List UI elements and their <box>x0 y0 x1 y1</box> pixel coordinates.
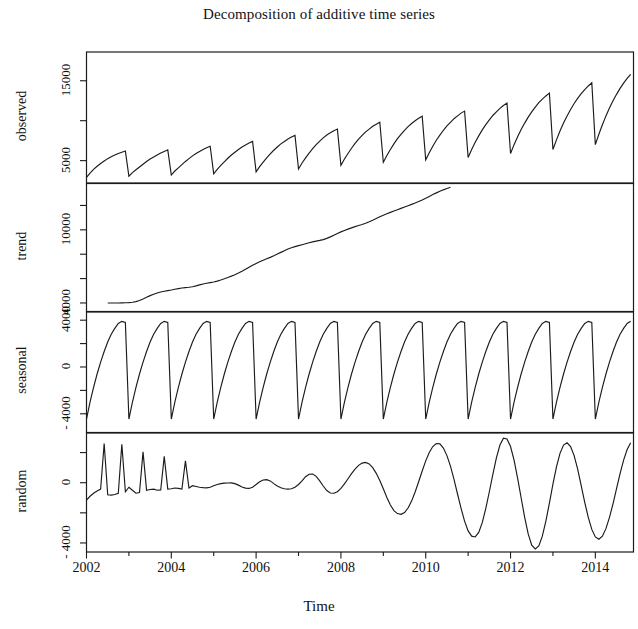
x-tick-label-2002: 2002 <box>57 560 117 576</box>
y-tick-label-trend-10000: 10000 <box>58 194 74 264</box>
series-line-random <box>87 438 631 549</box>
plot-canvas <box>0 0 638 629</box>
panel-label-seasonal: seasonal <box>14 315 30 425</box>
chart-title: Decomposition of additive time series <box>0 6 638 23</box>
y-tick-label-random-0: 0 <box>58 447 74 517</box>
panel-label-trend: trend <box>14 191 30 301</box>
panel-random <box>80 433 634 559</box>
y-tick-label-observed-15000: 15000 <box>58 45 74 115</box>
x-tick-label-2004: 2004 <box>141 560 201 576</box>
decomposition-figure: Decomposition of additive time series Ti… <box>0 0 638 629</box>
x-tick-label-2006: 2006 <box>226 560 286 576</box>
series-line-trend <box>108 187 451 303</box>
series-line-observed <box>87 74 631 177</box>
panel-frame-trend <box>87 184 634 312</box>
x-tick-label-2008: 2008 <box>311 560 371 576</box>
panel-label-observed: observed <box>14 61 30 171</box>
x-tick-label-2010: 2010 <box>396 560 456 576</box>
y-tick-label-observed-5000: 5000 <box>58 125 74 195</box>
x-tick-label-2014: 2014 <box>565 560 625 576</box>
panel-trend <box>80 184 634 312</box>
panel-seasonal <box>80 312 634 433</box>
y-tick-label-seasonal-4000: 4000 <box>58 284 74 354</box>
series-line-seasonal <box>87 321 631 419</box>
panel-label-random: random <box>14 436 30 546</box>
panel-observed <box>80 52 634 183</box>
x-tick-label-2012: 2012 <box>481 560 541 576</box>
x-axis-title: Time <box>0 598 638 615</box>
